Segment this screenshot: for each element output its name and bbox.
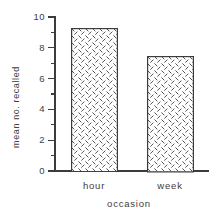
x-axis-title: occasion	[107, 198, 151, 209]
y-tick-label: 6	[25, 73, 45, 84]
y-axis-line	[54, 16, 56, 171]
y-tick-minor	[51, 63, 54, 64]
y-tick-major	[48, 140, 54, 141]
y-tick-minor	[51, 32, 54, 33]
y-tick-major	[48, 170, 54, 171]
y-axis-title: mean no. recalled	[11, 66, 21, 148]
category-label-week: week	[157, 180, 182, 191]
y-tick-major	[48, 47, 54, 48]
y-tick-label: 0	[25, 165, 45, 176]
y-tick-minor	[51, 124, 54, 125]
bar-chart-figure: mean no. recalled 0246810 hourweek occas…	[0, 0, 214, 223]
y-tick-major	[48, 78, 54, 79]
y-tick-minor	[51, 93, 54, 94]
y-tick-major	[48, 16, 54, 17]
y-tick-label: 10	[25, 11, 45, 22]
y-tick-major	[48, 109, 54, 110]
bar-hour	[71, 28, 118, 172]
bar-week	[147, 56, 194, 173]
category-label-hour: hour	[83, 180, 105, 191]
y-tick-minor	[51, 155, 54, 156]
y-tick-label: 2	[25, 134, 45, 145]
y-tick-label: 4	[25, 103, 45, 114]
y-tick-label: 8	[25, 42, 45, 53]
